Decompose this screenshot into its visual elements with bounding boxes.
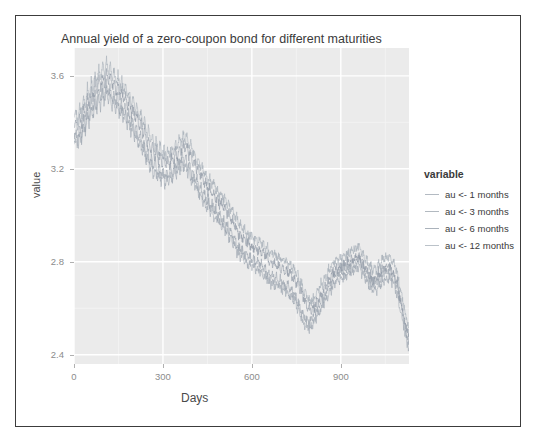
x-tick-label: 600 bbox=[232, 371, 272, 382]
x-axis-title: Days bbox=[181, 391, 208, 405]
x-tick-label: 300 bbox=[143, 371, 183, 382]
legend-item-label: au <- 6 months bbox=[445, 223, 509, 234]
x-tick-label: 900 bbox=[321, 371, 361, 382]
legend-item[interactable]: au <- 12 months bbox=[424, 237, 538, 254]
y-tick-mark bbox=[70, 355, 74, 356]
legend-swatch-icon bbox=[424, 241, 440, 251]
x-tick-mark bbox=[341, 364, 342, 368]
plot-panel bbox=[74, 48, 409, 364]
x-tick-label: 0 bbox=[54, 371, 94, 382]
legend-item-label: au <- 1 months bbox=[445, 189, 509, 200]
legend: variable au <- 1 monthsau <- 3 monthsau … bbox=[424, 168, 538, 254]
figure-frame: Annual yield of a zero-coupon bond for d… bbox=[15, 15, 521, 427]
legend-item[interactable]: au <- 6 months bbox=[424, 220, 538, 237]
y-axis-title: value bbox=[30, 172, 42, 198]
legend-item-label: au <- 12 months bbox=[445, 240, 514, 251]
y-tick-label: 2.4 bbox=[34, 349, 64, 360]
legend-swatch-icon bbox=[424, 207, 440, 217]
x-tick-mark bbox=[163, 364, 164, 368]
legend-title: variable bbox=[424, 168, 538, 180]
legend-item[interactable]: au <- 1 months bbox=[424, 186, 538, 203]
legend-swatch-icon bbox=[424, 190, 440, 200]
x-tick-mark bbox=[252, 364, 253, 368]
y-tick-label: 2.8 bbox=[34, 256, 64, 267]
y-tick-mark bbox=[70, 169, 74, 170]
y-tick-label: 3.6 bbox=[34, 70, 64, 81]
legend-swatch-icon bbox=[424, 224, 440, 234]
y-tick-mark bbox=[70, 76, 74, 77]
x-tick-mark bbox=[74, 364, 75, 368]
legend-items: au <- 1 monthsau <- 3 monthsau <- 6 mont… bbox=[424, 186, 538, 254]
legend-item-label: au <- 3 months bbox=[445, 206, 509, 217]
legend-item[interactable]: au <- 3 months bbox=[424, 203, 538, 220]
chart-canvas bbox=[74, 48, 409, 364]
y-tick-mark bbox=[70, 262, 74, 263]
page-title: Annual yield of a zero-coupon bond for d… bbox=[61, 32, 382, 46]
